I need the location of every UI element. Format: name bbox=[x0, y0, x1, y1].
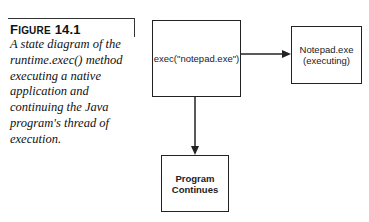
figure-label-prefix: F bbox=[10, 22, 18, 37]
figure-caption: A state diagram of the runtime.exec() me… bbox=[10, 37, 138, 148]
state-box-exec: exec("notepad.exe") bbox=[152, 20, 241, 97]
state-label-continue-line1: Program bbox=[172, 173, 218, 184]
arrowhead-right-icon bbox=[282, 50, 291, 58]
figure-label: FIGURE 14.1 bbox=[10, 22, 81, 37]
state-label-exec: exec("notepad.exe") bbox=[154, 53, 239, 64]
figure-number: 14.1 bbox=[55, 22, 81, 37]
state-label-continue-line2: Continues bbox=[172, 184, 218, 195]
caption-rule-tick bbox=[134, 18, 135, 37]
arrowhead-down-icon bbox=[191, 146, 199, 155]
arrow-exec-to-notepad bbox=[241, 50, 291, 58]
figure-label-word: IGURE bbox=[18, 25, 51, 36]
state-box-program-continues: Program Continues bbox=[161, 155, 229, 212]
arrow-exec-to-continue bbox=[191, 97, 199, 155]
state-label-notepad-line1: Notepad.exe bbox=[300, 44, 354, 55]
state-label-notepad-line2: (executing) bbox=[300, 55, 354, 66]
caption-rule bbox=[8, 18, 135, 19]
state-box-notepad: Notepad.exe (executing) bbox=[291, 26, 362, 84]
